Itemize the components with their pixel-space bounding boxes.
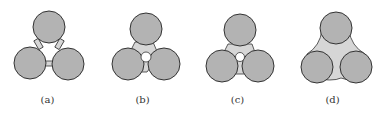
circle-right — [242, 50, 274, 82]
diagram-a — [0, 0, 95, 95]
panel-c: (c) — [190, 0, 285, 115]
diagram-b — [95, 0, 190, 95]
circle-right — [340, 51, 372, 83]
circle-right — [52, 48, 84, 80]
circle-top — [224, 14, 256, 46]
label-d: (d) — [285, 94, 380, 105]
label-a: (a) — [0, 94, 95, 105]
circle-left — [301, 51, 333, 83]
panel-a: (a) — [0, 0, 95, 115]
circle-left — [112, 48, 144, 80]
circle-top — [320, 12, 352, 44]
circle-top — [130, 13, 162, 45]
center-hole — [236, 53, 245, 62]
center-hole — [141, 52, 151, 62]
diagram-c — [190, 0, 285, 95]
panel-b: (b) — [95, 0, 190, 115]
circle-top — [33, 11, 65, 43]
label-c: (c) — [190, 94, 285, 105]
circle-right — [148, 48, 180, 80]
panel-d: (d) — [285, 0, 380, 115]
diagram-d — [285, 0, 380, 95]
circle-left — [206, 50, 238, 82]
circle-left — [14, 47, 46, 79]
label-b: (b) — [95, 94, 190, 105]
